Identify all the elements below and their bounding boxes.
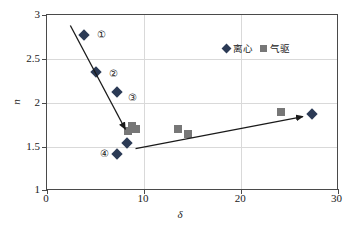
y-tick-label: 1.5 xyxy=(12,141,40,152)
x-tick-label: 20 xyxy=(225,193,255,204)
x-tick-label: 10 xyxy=(128,193,158,204)
scatter-chart: ①②③④ 离心 气驱 3 2.5 2 1.5 1 0 10 20 30 n δ xyxy=(0,0,353,228)
y-axis-title: n xyxy=(10,85,22,119)
x-tick-label: 0 xyxy=(31,193,61,204)
y-tick-label: 2.5 xyxy=(12,53,40,64)
y-tick-label: 3 xyxy=(12,9,40,20)
x-axis-title: δ xyxy=(160,208,200,220)
x-tick-label: 30 xyxy=(322,193,352,204)
